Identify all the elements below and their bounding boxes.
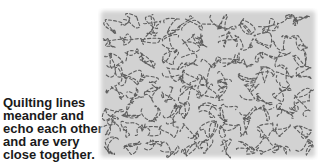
caption-line-5: close together. — [3, 148, 103, 161]
stipple-quilt-pattern-icon — [98, 8, 318, 160]
caption: Quilting lines meander and echo each oth… — [3, 96, 103, 161]
quilt-swatch-image — [98, 8, 318, 160]
